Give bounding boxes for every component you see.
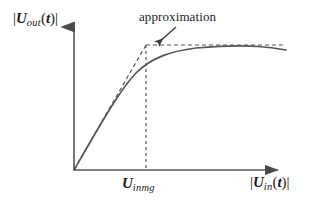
transfer-curve <box>74 46 286 170</box>
y-axis-label-symbol: U <box>16 10 27 26</box>
x-tick-label-symbol: U <box>122 175 133 191</box>
x-axis-label: |Uin(t)| <box>250 175 290 192</box>
x-tick-label-inmg: Uinmg <box>122 176 155 193</box>
y-axis-label-subscript: out <box>27 17 41 28</box>
x-tick-label-subscript: inmg <box>133 182 155 193</box>
y-axis-label: |Uout(t)| <box>13 11 58 28</box>
approximation-annotation-label: approximation <box>139 10 216 23</box>
x-axis-label-symbol: U <box>253 174 264 190</box>
y-axis-label-bar-close: | <box>55 10 58 26</box>
x-axis-label-bar-close: | <box>287 174 290 190</box>
annotation-arrow <box>158 27 176 43</box>
transfer-characteristic-figure: approximation |Uout(t)| |Uin(t)| Uinmg <box>0 0 326 209</box>
